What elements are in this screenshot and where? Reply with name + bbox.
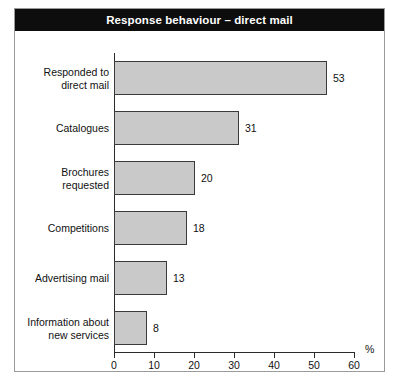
bar-row: Advertising mail 13 <box>15 253 386 303</box>
x-axis-tick <box>154 353 155 358</box>
x-axis-tick-label: 0 <box>111 359 117 371</box>
bar-value-label: 18 <box>193 222 205 234</box>
bar-row: Catalogues 31 <box>15 103 386 153</box>
category-label: Responded to direct mail <box>44 66 109 91</box>
bar <box>114 61 327 95</box>
bar <box>114 311 147 345</box>
bar-row: Competitions 18 <box>15 203 386 253</box>
x-axis-tick-label: 20 <box>188 359 200 371</box>
bar <box>114 111 239 145</box>
x-axis-tick-label: 40 <box>268 359 280 371</box>
bar-value-label: 31 <box>245 122 257 134</box>
plot-area: Responded to direct mail 53 Catalogues 3… <box>15 31 386 372</box>
bar-value-label: 53 <box>333 72 345 84</box>
bar-row: Information about new services 8 <box>15 303 386 353</box>
chart-title-banner: Response behaviour – direct mail <box>15 9 384 31</box>
x-axis-tick <box>194 353 195 358</box>
x-axis-tick <box>234 353 235 358</box>
category-label: Information about new services <box>27 316 109 341</box>
bar <box>114 161 195 195</box>
category-label: Brochures requested <box>61 166 109 191</box>
x-axis-tick-label: 60 <box>348 359 360 371</box>
x-axis-tick-label: 50 <box>308 359 320 371</box>
bar-value-label: 13 <box>173 272 185 284</box>
bar-row: Brochures requested 20 <box>15 153 386 203</box>
bar-value-label: 8 <box>153 322 159 334</box>
x-axis-tick-label: 10 <box>148 359 160 371</box>
category-label: Catalogues <box>56 122 109 135</box>
bar-row: Responded to direct mail 53 <box>15 53 386 103</box>
chart-figure: Response behaviour – direct mail Respond… <box>14 8 385 372</box>
x-axis-tick <box>314 353 315 358</box>
bar-value-label: 20 <box>201 172 213 184</box>
x-axis-tick-label: 30 <box>228 359 240 371</box>
x-axis-tick <box>274 353 275 358</box>
category-label: Competitions <box>48 222 109 235</box>
page-title: Response behaviour – direct mail <box>106 14 293 26</box>
category-label: Advertising mail <box>35 272 109 285</box>
x-axis-tick <box>114 353 115 358</box>
bar <box>114 261 167 295</box>
x-axis-tick <box>354 353 355 358</box>
x-axis-unit-label: % <box>365 343 374 355</box>
bar <box>114 211 187 245</box>
